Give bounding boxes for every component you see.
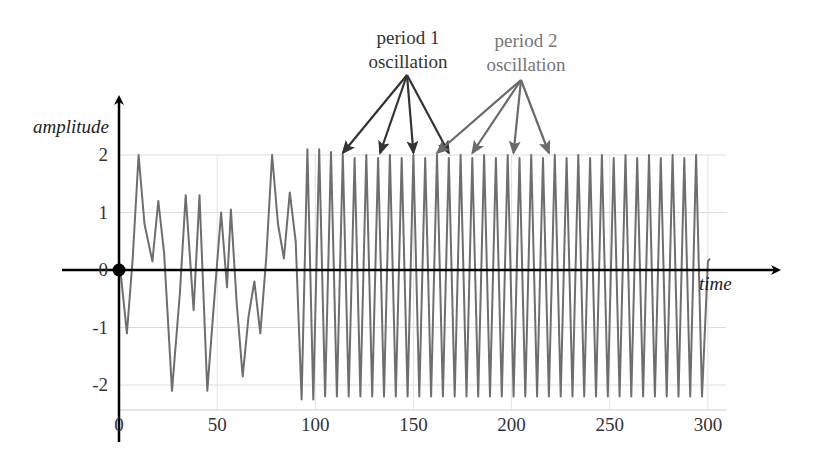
annotations: period 1oscillationperiod 2oscillation [343,27,566,153]
annotation-period1-line2: oscillation [368,51,448,72]
y-tick-label: -1 [92,317,108,338]
x-tick-label: 150 [399,414,428,435]
x-tick-label: 100 [301,414,330,435]
annotation-period1-line1: period 1 [377,27,440,48]
annotation-period2-line1: period 2 [495,30,558,51]
annotation-period2-line2: oscillation [486,54,566,75]
annotation-arrow-period2 [521,80,549,153]
chart-container: timeamplitude 210-1-2050100150200250300 … [0,0,820,469]
origin-dot [113,264,126,277]
y-axis-label: amplitude [33,116,109,137]
y-tick-label: 1 [99,202,109,223]
x-tick-label: 50 [208,414,227,435]
x-tick-label: 250 [596,414,625,435]
y-tick-label: 0 [99,259,109,280]
x-tick-label: 300 [694,414,723,435]
series-line [119,149,710,399]
amplitude-series [119,149,710,399]
x-tick-label: 0 [114,414,124,435]
x-axis-label: time [699,273,732,294]
y-tick-label: 2 [99,144,109,165]
annotation-arrow-period1 [343,75,407,153]
annotation-arrow-period1 [380,75,407,153]
chart-svg: timeamplitude 210-1-2050100150200250300 … [0,0,820,469]
x-tick-label: 200 [497,414,526,435]
y-tick-label: -2 [92,374,108,395]
